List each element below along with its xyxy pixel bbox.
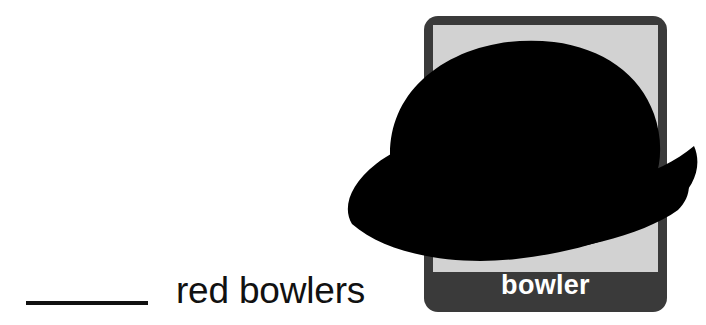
picture-card[interactable]: bowler bbox=[424, 16, 667, 312]
picture-card-panel bbox=[433, 25, 658, 272]
picture-card-footer: bowler bbox=[424, 263, 667, 312]
screenshot-root: bowler red bowlers bbox=[0, 0, 706, 325]
fill-in-the-blank-prompt: red bowlers bbox=[26, 266, 365, 314]
prompt-text: red bowlers bbox=[176, 272, 365, 309]
answer-blank-line[interactable] bbox=[26, 301, 148, 305]
picture-card-label: bowler bbox=[501, 272, 590, 303]
